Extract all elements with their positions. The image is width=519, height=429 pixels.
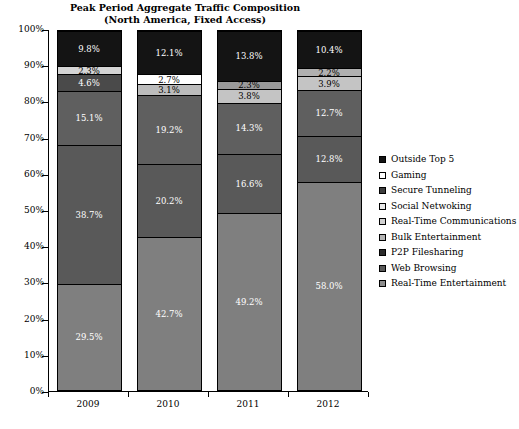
bar-segment[interactable]: 14.3% xyxy=(218,103,281,154)
y-axis-tick-label: 50% xyxy=(4,206,44,215)
y-axis-tick-label: 70% xyxy=(4,134,44,143)
legend-swatch-icon xyxy=(379,234,386,241)
legend-item-label: Secure Tunneling xyxy=(391,186,472,195)
bar-segment[interactable]: 4.6% xyxy=(58,74,121,91)
legend-item-gaming[interactable]: Gaming xyxy=(379,168,519,184)
bar-segment[interactable]: 38.7% xyxy=(58,145,121,284)
legend-swatch-icon xyxy=(379,156,386,163)
y-axis-tick-label: 20% xyxy=(4,315,44,324)
bar-segment-label: 2.7% xyxy=(158,76,180,85)
x-axis-tick xyxy=(288,392,289,397)
y-axis-tick-label: 0% xyxy=(4,387,44,396)
bar-segment[interactable]: 12.8% xyxy=(298,136,361,182)
x-axis-label-2011: 2011 xyxy=(216,400,281,409)
bar-segment-label: 3.9% xyxy=(318,80,340,89)
legend-item-label: Social Netwoking xyxy=(391,202,471,211)
bar-2010[interactable]: 42.7%20.2%19.2%3.1%2.7%12.1% xyxy=(137,30,202,391)
bar-segment-label: 4.6% xyxy=(78,79,100,88)
legend-swatch-icon xyxy=(379,172,386,179)
bar-segment-label: 12.8% xyxy=(315,155,342,164)
legend-swatch-icon xyxy=(379,187,386,194)
bar-segment[interactable]: 20.2% xyxy=(138,164,201,237)
chart-root: Peak Period Aggregate Traffic Compositio… xyxy=(0,0,519,429)
bar-segment[interactable]: 13.8% xyxy=(218,31,281,81)
legend-item-outside-top-5[interactable]: Outside Top 5 xyxy=(379,152,519,168)
bar-segment[interactable]: 29.5% xyxy=(58,284,121,390)
bar-segment-label: 16.6% xyxy=(235,180,262,189)
bar-segment-label: 42.7% xyxy=(155,310,182,319)
bar-segment[interactable]: 58.0% xyxy=(298,182,361,390)
legend-item-label: Gaming xyxy=(391,171,427,180)
bar-segment-label: 2.3% xyxy=(238,81,260,90)
bar-segment[interactable]: 3.9% xyxy=(298,76,361,90)
bar-segment[interactable]: 9.8% xyxy=(58,31,121,66)
legend-item-web-browsing[interactable]: Web Browsing xyxy=(379,261,519,277)
chart-legend: Outside Top 5GamingSecure TunnelingSocia… xyxy=(379,152,519,292)
legend-swatch-icon xyxy=(379,265,386,272)
legend-swatch-icon xyxy=(379,280,386,287)
bar-2011[interactable]: 49.2%16.6%14.3%3.8%2.3%13.8% xyxy=(217,30,282,391)
x-axis-label-2010: 2010 xyxy=(136,400,201,409)
legend-item-label: P2P Filesharing xyxy=(391,248,464,257)
bar-segment[interactable]: 2.3% xyxy=(58,66,121,74)
bar-segment-label: 38.7% xyxy=(75,211,102,220)
y-axis-tick-label: 100% xyxy=(4,25,44,34)
bar-segment-label: 3.8% xyxy=(238,92,260,101)
x-axis-tick xyxy=(48,392,49,397)
bar-segment-label: 15.1% xyxy=(75,114,102,123)
bar-segment-label: 20.2% xyxy=(155,197,182,206)
bar-segment[interactable]: 2.2% xyxy=(298,68,361,76)
legend-swatch-icon xyxy=(379,249,386,256)
bar-segment[interactable]: 12.7% xyxy=(298,90,361,136)
legend-item-label: Outside Top 5 xyxy=(391,155,454,164)
bar-segment[interactable]: 49.2% xyxy=(218,213,281,390)
bar-2012[interactable]: 58.0%12.8%12.7%3.9%2.2%10.4% xyxy=(297,30,362,391)
bar-segment[interactable]: 2.7% xyxy=(138,74,201,84)
x-axis: 2009201020112012 xyxy=(48,392,368,422)
bar-segment[interactable]: 42.7% xyxy=(138,237,201,390)
legend-item-p2p-filesharing[interactable]: P2P Filesharing xyxy=(379,245,519,261)
bar-segment[interactable]: 15.1% xyxy=(58,91,121,145)
chart-title: Peak Period Aggregate Traffic Compositio… xyxy=(0,2,370,14)
y-axis-tick-label: 80% xyxy=(4,97,44,106)
plot-area: 29.5%38.7%15.1%4.6%2.3%9.8%42.7%20.2%19.… xyxy=(48,30,368,392)
chart-subtitle: (North America, Fixed Access) xyxy=(0,14,370,26)
chart-title-block: Peak Period Aggregate Traffic Compositio… xyxy=(0,2,370,25)
bar-segment-label: 2.3% xyxy=(78,67,100,76)
x-axis-tick xyxy=(208,392,209,397)
bar-segment-label: 3.1% xyxy=(158,86,180,95)
bar-segment[interactable]: 12.1% xyxy=(138,31,201,74)
x-axis-tick xyxy=(368,392,369,397)
bar-segment[interactable]: 2.3% xyxy=(218,81,281,89)
bar-2009[interactable]: 29.5%38.7%15.1%4.6%2.3%9.8% xyxy=(57,30,122,391)
bar-segment-label: 9.8% xyxy=(78,45,100,54)
y-axis-tick-label: 40% xyxy=(4,242,44,251)
x-axis-label-2012: 2012 xyxy=(296,400,361,409)
bar-segment[interactable]: 3.1% xyxy=(138,84,201,95)
bar-segment-label: 10.4% xyxy=(315,46,342,55)
legend-item-real-time-communications[interactable]: Real-Time Communications xyxy=(379,214,519,230)
bar-segment[interactable]: 16.6% xyxy=(218,154,281,214)
legend-item-bulk-entertainment[interactable]: Bulk Entertainment xyxy=(379,230,519,246)
bar-segment-label: 14.3% xyxy=(235,124,262,133)
legend-item-real-time-entertainment[interactable]: Real-Time Entertainment xyxy=(379,276,519,292)
y-axis-tick-label: 90% xyxy=(4,61,44,70)
y-axis-tick-label: 60% xyxy=(4,170,44,179)
legend-item-social-netwoking[interactable]: Social Netwoking xyxy=(379,199,519,215)
legend-swatch-icon xyxy=(379,218,386,225)
bar-segment[interactable]: 19.2% xyxy=(138,95,201,164)
bar-segment-label: 12.7% xyxy=(315,109,342,118)
bar-segment-label: 49.2% xyxy=(235,298,262,307)
bar-segment[interactable]: 10.4% xyxy=(298,31,361,68)
x-axis-tick xyxy=(128,392,129,397)
bar-segment-label: 19.2% xyxy=(155,126,182,135)
bar-segment-label: 12.1% xyxy=(155,49,182,58)
legend-item-secure-tunneling[interactable]: Secure Tunneling xyxy=(379,183,519,199)
legend-item-label: Real-Time Entertainment xyxy=(391,279,506,288)
y-axis: 0%10%20%30%40%50%60%70%80%90%100% xyxy=(0,30,44,392)
legend-item-label: Bulk Entertainment xyxy=(391,233,481,242)
legend-swatch-icon xyxy=(379,203,386,210)
bar-segment-label: 13.8% xyxy=(235,52,262,61)
y-axis-tick-label: 10% xyxy=(4,351,44,360)
bar-segment[interactable]: 3.8% xyxy=(218,89,281,103)
